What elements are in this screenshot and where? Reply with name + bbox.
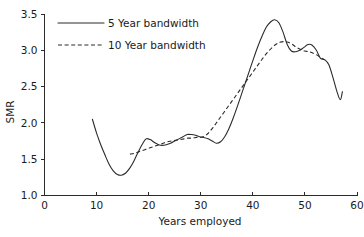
y-tick-label: 3.0	[21, 44, 38, 56]
x-tick-label: 20	[142, 199, 155, 211]
smr-line-chart: 1.01.52.02.53.03.5 0102030405060 SMR Yea…	[0, 0, 364, 237]
x-axis-title: Years employed	[157, 215, 241, 227]
y-tick-label: 2.0	[21, 117, 38, 129]
chart-figure: 1.01.52.02.53.03.5 0102030405060 SMR Yea…	[0, 0, 364, 237]
x-tick-label: 40	[246, 199, 259, 211]
legend-label-5-year: 5 Year bandwidth	[108, 17, 199, 29]
x-tick-label: 10	[90, 199, 103, 211]
x-tick-label: 30	[194, 199, 207, 211]
y-tick-label: 2.5	[21, 80, 38, 92]
y-axis-title: SMR	[4, 100, 16, 123]
legend-label-10-year: 10 Year bandwidth	[108, 39, 206, 51]
x-tick-label: 60	[350, 199, 363, 211]
x-tick-label: 0	[41, 199, 48, 211]
y-tick-label: 1.0	[21, 189, 38, 201]
y-tick-label: 3.5	[21, 8, 38, 20]
y-tick-label: 1.5	[21, 153, 38, 165]
x-tick-label: 50	[298, 199, 311, 211]
